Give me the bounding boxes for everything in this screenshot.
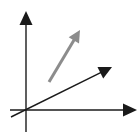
y-axis: [20, 11, 33, 132]
vector-diagram: [0, 0, 140, 137]
vector-diagram-svg: [0, 0, 140, 137]
y-axis-arrowhead-icon: [20, 11, 33, 25]
x-axis: [10, 104, 137, 117]
x-axis-arrowhead-icon: [123, 104, 137, 117]
gray-vector: [49, 30, 80, 82]
gray-vector-line: [49, 38, 75, 82]
